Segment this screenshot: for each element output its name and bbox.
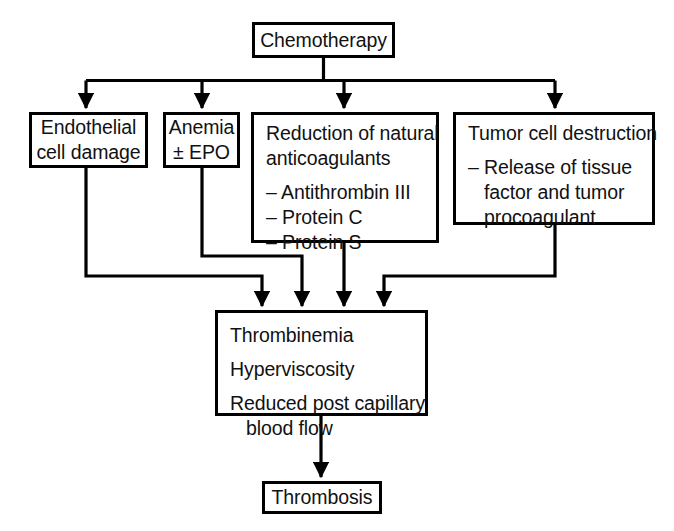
flowchart-canvas: Chemotherapy Endothelial cell damage Ane… [0, 0, 674, 531]
node-anticoagulants-item-2: – Protein C [266, 205, 426, 230]
node-endothelial-cell-damage[interactable]: Endothelial cell damage [29, 112, 148, 168]
node-endothelial-line-1: Endothelial [32, 115, 145, 140]
flowchart-connectors [0, 0, 674, 531]
node-anticoagulants-line-2: anticoagulants [266, 146, 426, 171]
edge-endothelial-to-thrombinemia [86, 168, 262, 306]
node-thrombinemia[interactable]: Thrombinemia Hyperviscosity Reduced post… [215, 310, 428, 416]
node-endothelial-line-2: cell damage [32, 140, 145, 165]
node-tumor-item-1: – Release of tissue [468, 155, 642, 180]
node-thrombinemia-line-2: Hyperviscosity [230, 357, 415, 382]
node-anemia-epo[interactable]: Anemia ± EPO [163, 112, 240, 168]
node-thrombinemia-line-4: blood flow [230, 416, 415, 441]
node-chemotherapy-label: Chemotherapy [255, 28, 392, 53]
node-anticoagulants-item-1: – Antithrombin III [266, 180, 426, 205]
node-thrombinemia-line-1: Thrombinemia [230, 323, 415, 348]
node-thrombosis[interactable]: Thrombosis [262, 481, 382, 514]
node-anemia-line-2: ± EPO [166, 140, 237, 165]
node-thrombosis-label: Thrombosis [265, 485, 379, 510]
node-anemia-line-1: Anemia [166, 115, 237, 140]
node-reduction-of-natural-anticoagulants[interactable]: Reduction of natural anticoagulants – An… [251, 112, 439, 243]
node-anticoagulants-item-3: – Protein S [266, 230, 426, 255]
node-tumor-line-1: Tumor cell destruction [468, 121, 642, 146]
node-tumor-item-3: procoagulant [468, 205, 642, 230]
node-anticoagulants-line-1: Reduction of natural [266, 121, 426, 146]
node-thrombinemia-line-3: Reduced post capillary [230, 391, 415, 416]
node-tumor-item-2: factor and tumor [468, 180, 642, 205]
node-tumor-cell-destruction[interactable]: Tumor cell destruction – Release of tiss… [453, 112, 655, 225]
node-chemotherapy[interactable]: Chemotherapy [252, 22, 395, 58]
